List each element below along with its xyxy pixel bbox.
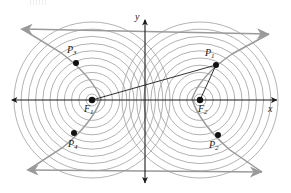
hyperbola-figure: y x F1F2P1P2P3P4 (0, 0, 291, 193)
x-axis-label: x (268, 104, 272, 114)
figure-canvas (0, 0, 291, 193)
y-axis-label: y (135, 12, 139, 22)
point-label-subscript: 3 (73, 49, 77, 57)
segment-F2-P1 (200, 65, 216, 100)
focus-label-F1: F1 (84, 104, 94, 114)
focus-label-subscript: 1 (90, 108, 94, 116)
point-dot-P3 (73, 60, 79, 66)
point-markers (71, 60, 221, 138)
point-label-P3: P3 (67, 45, 77, 55)
point-label-P2: P2 (209, 140, 219, 150)
point-dot-P2 (215, 132, 221, 138)
point-label-P4: P4 (68, 139, 78, 149)
point-dot-P4 (71, 130, 77, 136)
point-label-subscript: 1 (211, 52, 215, 60)
focus-label-F2: F2 (198, 104, 208, 114)
point-label-subscript: 2 (215, 144, 219, 152)
point-dot-P1 (213, 62, 219, 68)
point-label-subscript: 4 (74, 143, 78, 151)
point-label-P1: P1 (205, 48, 215, 58)
focus-label-subscript: 2 (204, 108, 208, 116)
